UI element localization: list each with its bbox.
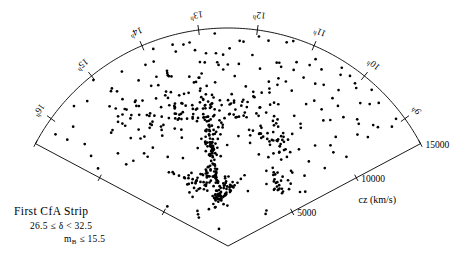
galaxy-point: [193, 187, 196, 190]
galaxy-point: [249, 142, 252, 145]
galaxy-point: [200, 72, 203, 75]
galaxy-point: [214, 199, 217, 202]
galaxy-point: [265, 169, 268, 172]
galaxy-point: [260, 137, 263, 140]
galaxy-point: [274, 173, 277, 176]
galaxy-point: [125, 163, 128, 166]
galaxy-point: [269, 103, 272, 106]
galaxy-point: [166, 205, 169, 208]
galaxy-point: [198, 216, 201, 219]
hour-label-13h: 13h: [189, 9, 204, 22]
galaxy-point: [303, 174, 306, 177]
galaxy-point: [275, 122, 278, 125]
galaxy-point: [252, 129, 255, 132]
galaxy-point: [224, 177, 227, 180]
galaxy-point: [208, 125, 211, 128]
galaxy-point: [151, 120, 154, 123]
galaxy-point: [196, 176, 199, 179]
galaxy-point: [146, 114, 149, 117]
galaxy-point: [174, 106, 177, 109]
galaxy-point: [226, 63, 229, 66]
mag-limit-value: ≤ 15.5: [79, 234, 105, 244]
galaxy-point: [277, 125, 280, 128]
galaxy-point: [187, 177, 190, 180]
galaxy-point: [121, 122, 124, 125]
galaxy-point: [230, 93, 233, 96]
galaxy-point: [299, 191, 302, 194]
galaxy-point: [221, 126, 224, 129]
galaxy-point: [285, 41, 288, 44]
cfa-redshift-wedge-figure: 16h15h14h13h12h11h10h9h 50001000015000cz…: [0, 0, 468, 267]
galaxy-point: [280, 65, 283, 68]
galaxy-point: [265, 209, 268, 212]
galaxy-point: [337, 89, 340, 92]
galaxy-point: [72, 125, 75, 128]
galaxy-point: [265, 111, 268, 114]
galaxy-point: [155, 75, 158, 78]
galaxy-point: [199, 87, 202, 90]
galaxy-point: [314, 144, 317, 147]
galaxy-point: [278, 187, 281, 190]
galaxy-point: [222, 182, 225, 185]
galaxy-point: [313, 99, 316, 102]
galaxy-point: [220, 121, 223, 124]
galaxy-point: [205, 175, 208, 178]
hour-label-12h: 12h: [251, 9, 266, 22]
galaxy-point: [188, 191, 191, 194]
caption-declination-range: 26.5 ≤ δ < 32.5: [14, 220, 105, 234]
galaxy-point: [329, 119, 332, 122]
galaxy-point: [272, 120, 275, 123]
galaxy-point: [224, 182, 227, 185]
galaxy-point: [160, 125, 163, 128]
galaxy-point: [160, 106, 163, 109]
galaxy-point: [216, 61, 219, 64]
galaxy-point: [231, 181, 234, 184]
galaxy-point: [213, 197, 216, 200]
galaxy-point: [323, 167, 326, 170]
galaxy-point: [208, 134, 211, 137]
galaxy-point: [203, 104, 206, 107]
galaxy-point: [304, 190, 307, 193]
galaxy-point: [267, 156, 270, 159]
galaxy-point: [152, 48, 155, 51]
galaxy-point: [320, 108, 323, 111]
galaxy-point: [227, 175, 230, 178]
galaxy-point: [124, 124, 127, 127]
galaxy-point: [233, 75, 236, 78]
galaxy-point: [259, 67, 262, 70]
galaxy-point: [284, 148, 287, 151]
galaxy-point: [213, 114, 216, 117]
galaxy-point: [276, 171, 279, 174]
galaxy-point: [139, 137, 142, 140]
galaxy-point: [258, 132, 261, 135]
galaxy-point: [276, 83, 279, 86]
galaxy-point: [171, 171, 174, 174]
galaxy-point: [135, 105, 138, 108]
galaxy-point: [207, 100, 210, 103]
galaxy-point: [278, 145, 281, 148]
galaxy-point: [228, 188, 231, 191]
galaxy-point: [209, 137, 212, 140]
galaxy-point: [273, 115, 276, 118]
galaxy-point: [183, 177, 186, 180]
galaxy-point: [299, 122, 302, 125]
galaxy-point: [307, 160, 310, 163]
galaxy-point: [290, 89, 293, 92]
galaxy-point: [202, 181, 205, 184]
galaxy-point: [206, 189, 209, 192]
galaxy-point: [302, 76, 305, 79]
galaxy-point: [295, 61, 298, 64]
galaxy-point: [217, 126, 220, 129]
galaxy-point: [212, 96, 215, 99]
galaxy-point: [178, 113, 181, 116]
galaxy-point: [342, 116, 345, 119]
galaxy-point: [226, 144, 229, 147]
galaxy-point: [268, 87, 271, 90]
galaxy-point: [199, 181, 202, 184]
galaxy-point: [228, 47, 231, 50]
radial-label-10000: 10000: [361, 174, 385, 184]
galaxy-point: [191, 104, 194, 107]
galaxy-point: [153, 114, 156, 117]
galaxy-point: [202, 107, 205, 110]
galaxy-point: [191, 178, 194, 181]
